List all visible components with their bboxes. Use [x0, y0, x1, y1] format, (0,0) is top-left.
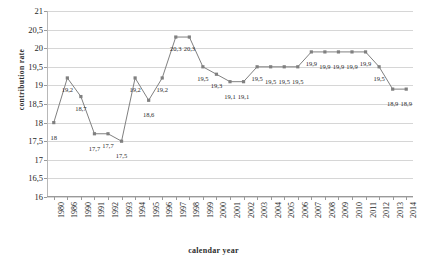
- data-label: 18,7: [75, 105, 86, 112]
- x-tick-label: 2011: [369, 202, 378, 218]
- x-tick-mark: [379, 197, 380, 200]
- data-point-marker: [79, 95, 82, 98]
- x-tick-label: 2014: [409, 202, 418, 218]
- data-point-marker: [256, 65, 259, 68]
- x-tick-label: 1996: [165, 202, 174, 218]
- data-label: 19,2: [129, 86, 140, 93]
- data-point-marker: [378, 65, 381, 68]
- data-point-marker: [106, 132, 109, 135]
- x-tick-label: 2009: [341, 202, 350, 218]
- data-point-marker: [228, 80, 231, 83]
- x-tick-label: 1994: [138, 202, 147, 218]
- x-tick-label: 2002: [247, 202, 256, 218]
- data-label: 18,6: [143, 111, 154, 118]
- x-tick-mark: [81, 197, 82, 200]
- x-tick-mark: [122, 197, 123, 200]
- data-label: 19,2: [62, 86, 73, 93]
- data-label: 20,3: [170, 45, 181, 52]
- data-label: 19,5: [251, 75, 262, 82]
- data-point-marker: [242, 80, 245, 83]
- data-label: 19,9: [319, 63, 330, 70]
- chart-figure: contribution rate 2120,52019,51918,51817…: [0, 0, 427, 269]
- data-label: 19,1: [224, 93, 235, 100]
- x-tick-mark: [135, 197, 136, 200]
- y-tick-label: 21: [35, 6, 44, 16]
- data-point-marker: [201, 65, 204, 68]
- data-label: 19,5: [373, 75, 384, 82]
- x-tick-label: 1998: [192, 202, 201, 218]
- data-point-marker: [323, 50, 326, 53]
- data-label: 18,9: [387, 100, 398, 107]
- x-tick-mark: [338, 197, 339, 200]
- x-tick-label: 1991: [97, 202, 106, 218]
- x-tick-label: 2001: [233, 202, 242, 218]
- x-tick-label: 2013: [396, 202, 405, 218]
- x-tick-label: 2012: [382, 202, 391, 218]
- x-tick-label: 2004: [274, 202, 283, 218]
- x-tick-mark: [325, 197, 326, 200]
- x-tick-mark: [203, 197, 204, 200]
- y-tick-mark: [44, 197, 47, 198]
- data-point-marker: [337, 50, 340, 53]
- data-point-marker: [310, 50, 313, 53]
- data-label: 19,5: [292, 78, 303, 85]
- data-point-marker: [174, 35, 177, 38]
- x-tick-mark: [406, 197, 407, 200]
- data-label: 19,5: [279, 78, 290, 85]
- data-label: 19,1: [238, 93, 249, 100]
- data-label: 19,9: [333, 63, 344, 70]
- x-tick-label: 2010: [355, 202, 364, 218]
- data-point-marker: [391, 88, 394, 91]
- x-tick-mark: [94, 197, 95, 200]
- x-tick-label: 2007: [314, 202, 323, 218]
- x-tick-label: 1990: [84, 202, 93, 218]
- data-point-marker: [269, 65, 272, 68]
- x-tick-label: 2003: [260, 202, 269, 218]
- y-tick-label: 19: [35, 80, 44, 90]
- x-tick-mark: [108, 197, 109, 200]
- y-tick-label: 18: [35, 118, 44, 128]
- y-tick-label: 19,5: [28, 62, 43, 72]
- data-point-marker: [405, 88, 408, 91]
- data-point-marker: [66, 76, 69, 79]
- data-label: 20,3: [184, 45, 195, 52]
- data-point-marker: [161, 76, 164, 79]
- plot-area: 2120,52019,51918,51817,51716,516 1980198…: [47, 11, 413, 197]
- data-label: 18,9: [401, 100, 412, 107]
- y-tick-label: 16: [35, 192, 44, 202]
- x-tick-label: 2006: [301, 202, 310, 218]
- x-tick-mark: [311, 197, 312, 200]
- x-tick-mark: [366, 197, 367, 200]
- x-axis-title: calendar year: [0, 246, 427, 255]
- x-tick-label: 2008: [328, 202, 337, 218]
- y-tick-label: 20: [35, 43, 44, 53]
- x-tick-mark: [244, 197, 245, 200]
- data-point-marker: [93, 132, 96, 135]
- data-point-marker: [296, 65, 299, 68]
- x-tick-mark: [271, 197, 272, 200]
- y-tick-label: 16,5: [28, 173, 43, 183]
- x-tick-mark: [393, 197, 394, 200]
- x-tick-label: 1986: [70, 202, 79, 218]
- data-point-marker: [215, 73, 218, 76]
- y-tick-label: 17: [35, 155, 44, 165]
- data-label: 19,9: [346, 63, 357, 70]
- x-tick-label: 1992: [111, 202, 120, 218]
- series-line: [47, 11, 413, 197]
- y-tick-label: 18,5: [28, 99, 43, 109]
- x-tick-mark: [284, 197, 285, 200]
- x-tick-label: 2005: [287, 202, 296, 218]
- x-tick-mark: [257, 197, 258, 200]
- data-label: 17,7: [89, 145, 100, 152]
- x-tick-label: 1995: [152, 202, 161, 218]
- data-point-marker: [283, 65, 286, 68]
- x-tick-mark: [149, 197, 150, 200]
- data-point-marker: [364, 50, 367, 53]
- data-label: 19,2: [157, 86, 168, 93]
- y-tick-label: 17,5: [28, 136, 43, 146]
- x-tick-mark: [54, 197, 55, 200]
- x-tick-label: 1980: [57, 202, 66, 218]
- x-tick-label: 1999: [206, 202, 215, 218]
- x-tick-label: 2000: [219, 202, 228, 218]
- y-tick-label: 20,5: [28, 25, 43, 35]
